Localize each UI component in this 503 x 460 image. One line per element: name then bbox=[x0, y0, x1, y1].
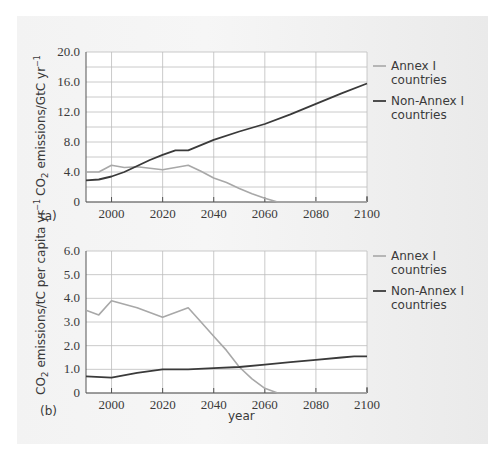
y-tick-label: 4.0 bbox=[64, 290, 80, 305]
legend-non-annex1-label-line1: Non-Annex I bbox=[391, 94, 464, 108]
x-tick-label: 2040 bbox=[201, 206, 227, 221]
x-tick-label: 2080 bbox=[303, 206, 329, 221]
legend-annex1-label-line2: countries bbox=[391, 73, 447, 87]
x-tick-label: 2000 bbox=[99, 206, 125, 221]
y-tick-label: 1.0 bbox=[64, 361, 80, 376]
x-tick-label: 2040 bbox=[201, 397, 227, 412]
y-tick-label: 2.0 bbox=[64, 338, 80, 353]
chart-a-legend: Annex I countries Non-Annex I countries bbox=[373, 59, 464, 122]
y-tick-label: 4.0 bbox=[64, 164, 80, 179]
x-tick-label: 2020 bbox=[150, 206, 176, 221]
y-tick-label: 0 bbox=[74, 385, 81, 400]
legend-non-annex1-label-line1: Non-Annex I bbox=[391, 284, 464, 298]
figure: 04.08.012.016.020.0200020202040206020802… bbox=[0, 0, 503, 460]
chart-b-panel-label: (b) bbox=[40, 404, 57, 418]
chart-b-y-axis-label: CO2 emissions/tC per capita yr−1 bbox=[33, 199, 50, 395]
x-tick-label: 2080 bbox=[303, 397, 329, 412]
x-tick-label: 2020 bbox=[150, 397, 176, 412]
legend-annex1-label-line1: Annex I bbox=[391, 249, 436, 263]
legend-annex1-label-line2: countries bbox=[391, 263, 447, 277]
chart-a-grid bbox=[86, 52, 367, 202]
chart-b: 01.02.03.04.05.06.0200020202040206020802… bbox=[33, 199, 464, 423]
legend-non-annex1-label-line2: countries bbox=[391, 108, 447, 122]
chart-a: 04.08.012.016.020.0200020202040206020802… bbox=[33, 44, 464, 223]
y-tick-label: 16.0 bbox=[57, 74, 80, 89]
chart-b-legend: Annex I countries Non-Annex I countries bbox=[373, 249, 464, 312]
y-tick-label: 8.0 bbox=[64, 134, 80, 149]
y-tick-label: 5.0 bbox=[64, 267, 80, 282]
x-tick-label: 2060 bbox=[252, 397, 278, 412]
y-tick-label: 3.0 bbox=[64, 314, 80, 329]
y-tick-label: 20.0 bbox=[57, 44, 80, 59]
x-tick-label: 2060 bbox=[252, 206, 278, 221]
legend-annex1-label-line1: Annex I bbox=[391, 59, 436, 73]
chart-a-y-axis-label: CO2 emissions/GtC yr−1 bbox=[33, 55, 50, 196]
chart-b-grid bbox=[86, 251, 367, 393]
x-tick-label: 2100 bbox=[354, 397, 380, 412]
y-tick-label: 6.0 bbox=[64, 243, 80, 258]
x-tick-label: 2100 bbox=[354, 206, 380, 221]
chart-b-x-axis-label: year bbox=[228, 409, 255, 423]
legend-non-annex1-label-line2: countries bbox=[391, 298, 447, 312]
y-tick-label: 12.0 bbox=[57, 104, 80, 119]
x-tick-label: 2000 bbox=[99, 397, 125, 412]
y-tick-label: 0 bbox=[74, 194, 81, 209]
